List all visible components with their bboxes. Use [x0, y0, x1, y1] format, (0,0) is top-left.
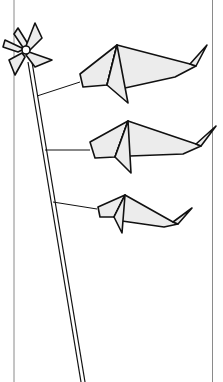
pole: [28, 62, 85, 382]
origami-fish-middle: [90, 121, 216, 173]
illustration-canvas: [0, 0, 223, 382]
pinwheel-icon: [3, 23, 52, 75]
origami-fish-top: [80, 45, 207, 103]
origami-fish-bottom: [98, 195, 192, 233]
